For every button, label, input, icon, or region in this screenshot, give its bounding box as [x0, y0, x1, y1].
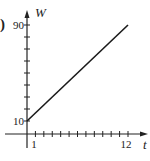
x-tick-label-first: 1	[31, 138, 37, 150]
panel-label: )	[0, 16, 5, 33]
y-tick-label-top: 90	[13, 19, 25, 31]
data-line	[27, 25, 128, 121]
y-axis-label: W	[35, 5, 47, 20]
x-axis-arrow-icon	[140, 132, 148, 137]
axes	[5, 14, 144, 148]
x-tick-label-last: 12	[121, 138, 132, 150]
x-axis-label: t	[143, 137, 147, 152]
line-chart: ) W t 90 10 1 12	[0, 0, 150, 161]
y-tick-label-bottom: 10	[13, 115, 25, 127]
y-axis-arrow-icon	[25, 10, 30, 18]
